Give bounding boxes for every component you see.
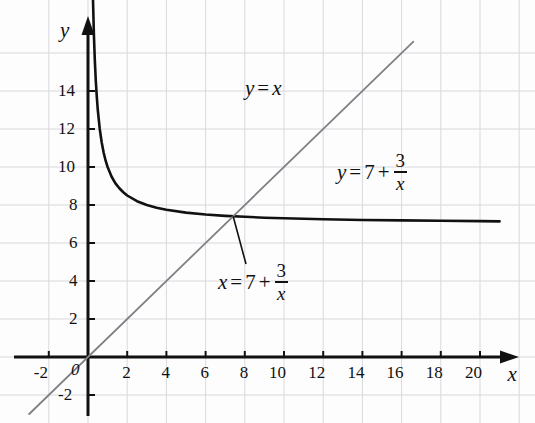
x-tick-label-20: 20: [465, 363, 482, 383]
line-eq-rhs: x: [272, 78, 281, 99]
x-tick-label-10: 10: [269, 363, 286, 383]
annotation-line-equation: y = x: [245, 78, 282, 99]
y-tick-label-14: 14: [58, 81, 75, 101]
x-axis-label: x: [507, 362, 516, 387]
curve-eq-operator: =: [346, 162, 364, 183]
graph-figure: -224681012141618200 1412108642-2 x y y =…: [0, 0, 535, 423]
inter-eq-plus: +: [256, 272, 274, 293]
annotation-curve-equation: y = 7 + 3 x: [337, 152, 408, 194]
y-tick-label-8: 8: [69, 195, 78, 215]
curve-eq-numerator: 3: [394, 151, 408, 170]
y-tick-label-10: 10: [58, 157, 75, 177]
y-tick-label-6: 6: [69, 233, 78, 253]
y-tick-label-12: 12: [58, 119, 75, 139]
x-tick-label-6: 6: [201, 363, 210, 383]
leader-line: [233, 216, 246, 264]
x-tick-label-18: 18: [426, 363, 443, 383]
inter-eq-denominator: x: [275, 284, 287, 303]
inter-eq-operator: =: [227, 272, 245, 293]
annotation-intersection-equation: x = 7 + 3 x: [218, 262, 289, 304]
x-tick-label-4: 4: [161, 363, 170, 383]
inter-eq-numerator: 3: [275, 261, 289, 280]
x-tick-label-12: 12: [308, 363, 325, 383]
y-tick-label-4: 4: [69, 271, 78, 291]
x-tick-label-14: 14: [347, 363, 364, 383]
y-axis-label: y: [60, 18, 69, 43]
inter-eq-constant: 7: [245, 272, 256, 293]
x-tick-label-16: 16: [387, 363, 404, 383]
x-tick-label-neg2: -2: [34, 363, 48, 383]
inter-eq-fraction: 3 x: [275, 261, 289, 303]
curve-eq-lhs: y: [337, 162, 346, 183]
inter-eq-lhs: x: [218, 272, 227, 293]
x-tick-label-8: 8: [240, 363, 249, 383]
y-tick-label-neg2: -2: [58, 385, 72, 405]
grid-lines: [0, 0, 535, 423]
y-tick-label-2: 2: [69, 309, 78, 329]
curve-eq-plus: +: [375, 162, 393, 183]
curve-eq-fraction: 3 x: [394, 151, 408, 193]
origin-label: 0: [71, 360, 80, 380]
line-eq-lhs: y: [245, 78, 254, 99]
data-curves: [29, 0, 499, 414]
x-tick-label-2: 2: [122, 363, 131, 383]
line-eq-operator: =: [254, 78, 272, 99]
graph-canvas: [0, 0, 535, 423]
curve-eq-denominator: x: [394, 174, 406, 193]
curve-eq-constant: 7: [364, 162, 375, 183]
